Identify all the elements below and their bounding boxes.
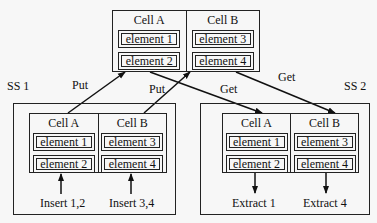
element-box: element 4 — [101, 155, 163, 173]
cell-title: Cell B — [309, 116, 340, 130]
element-box: element 4 — [294, 155, 356, 173]
cell-title: Cell B — [207, 13, 238, 27]
extract-1-label: Extract 1 — [232, 196, 276, 210]
cell-title: Cell A — [241, 116, 272, 130]
cell-title: Cell A — [48, 116, 79, 130]
cell-title: Cell B — [117, 116, 148, 130]
put-label-1: Put — [72, 78, 88, 92]
ss2-cell-a: Cell A element 1 element 2 — [223, 114, 290, 172]
element-box: element 2 — [226, 155, 288, 173]
put-label-2: Put — [149, 82, 165, 96]
get-label-2: Get — [278, 70, 295, 84]
ss1-label: SS 1 — [7, 79, 29, 93]
ss2-cell-b: Cell B element 3 element 4 — [290, 114, 358, 172]
top-cell-pair: Cell A element 1 element 2 Cell B elemen… — [112, 10, 260, 72]
ss2-label: SS 2 — [344, 79, 366, 93]
ss1-cell-a: Cell A element 1 element 2 — [30, 114, 98, 172]
element-box: element 3 — [192, 30, 254, 48]
element-box: element 2 — [33, 155, 95, 173]
element-box: element 1 — [33, 133, 95, 151]
top-cell-a: Cell A element 1 element 2 — [113, 11, 186, 71]
element-box: element 3 — [294, 133, 356, 151]
cell-title: Cell A — [134, 13, 165, 27]
ss1-cell-b: Cell B element 3 element 4 — [98, 114, 167, 172]
element-box: element 2 — [118, 52, 180, 70]
top-cell-b: Cell B element 3 element 4 — [186, 11, 260, 71]
element-box: element 1 — [226, 133, 288, 151]
extract-4-label: Extract 4 — [303, 196, 347, 210]
get-label-1: Get — [220, 82, 237, 96]
element-box: element 1 — [118, 30, 180, 48]
insert-3-4-label: Insert 3,4 — [109, 196, 154, 210]
ss2-cell-pair: Cell A element 1 element 2 Cell B elemen… — [222, 113, 359, 173]
insert-1-2-label: Insert 1,2 — [40, 196, 85, 210]
ss1-cell-pair: Cell A element 1 element 2 Cell B elemen… — [29, 113, 167, 173]
element-box: element 4 — [192, 52, 254, 70]
element-box: element 3 — [101, 133, 163, 151]
